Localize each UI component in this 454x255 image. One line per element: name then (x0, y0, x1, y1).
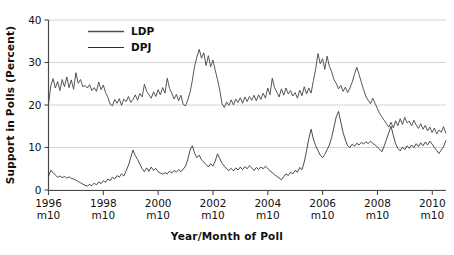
y-tick-label-10: 10 (28, 141, 41, 153)
y-tick-label-20: 20 (28, 99, 41, 111)
x-tick-label-year-2010: 2010 (419, 197, 446, 209)
x-tick-label-month-2006: m10 (311, 209, 335, 221)
x-tick-label-year-2000: 2000 (145, 197, 172, 209)
y-tick-label-30: 30 (28, 56, 41, 68)
x-tick-label-year-2006: 2006 (309, 197, 336, 209)
x-tick-label-month-1996: m10 (37, 209, 61, 221)
x-tick-label-month-2008: m10 (366, 209, 390, 221)
chart-container: 010203040 1996m101998m102000m102002m1020… (0, 0, 454, 255)
poll-support-line-chart: 010203040 1996m101998m102000m102002m1020… (0, 0, 454, 255)
x-tick-label-month-2000: m10 (146, 209, 170, 221)
legend-label-ldp: LDP (131, 25, 154, 37)
x-tick-label-month-2004: m10 (256, 209, 280, 221)
x-tick-label-month-2002: m10 (201, 209, 225, 221)
x-tick-label-year-2008: 2008 (364, 197, 391, 209)
x-tick-label-month-2010: m10 (420, 209, 444, 221)
y-axis-title: Support in Polls (Percent) (4, 26, 16, 185)
x-tick-label-year-2002: 2002 (200, 197, 227, 209)
legend-label-dpj: DPJ (131, 41, 151, 53)
x-tick-label-year-1996: 1996 (35, 197, 62, 209)
x-axis-title: Year/Month of Poll (170, 230, 283, 242)
y-tick-label-0: 0 (35, 184, 42, 196)
x-tick-label-year-1998: 1998 (90, 197, 117, 209)
x-tick-label-year-2004: 2004 (254, 197, 281, 209)
y-tick-label-40: 40 (28, 14, 41, 26)
x-tick-label-month-1998: m10 (92, 209, 116, 221)
